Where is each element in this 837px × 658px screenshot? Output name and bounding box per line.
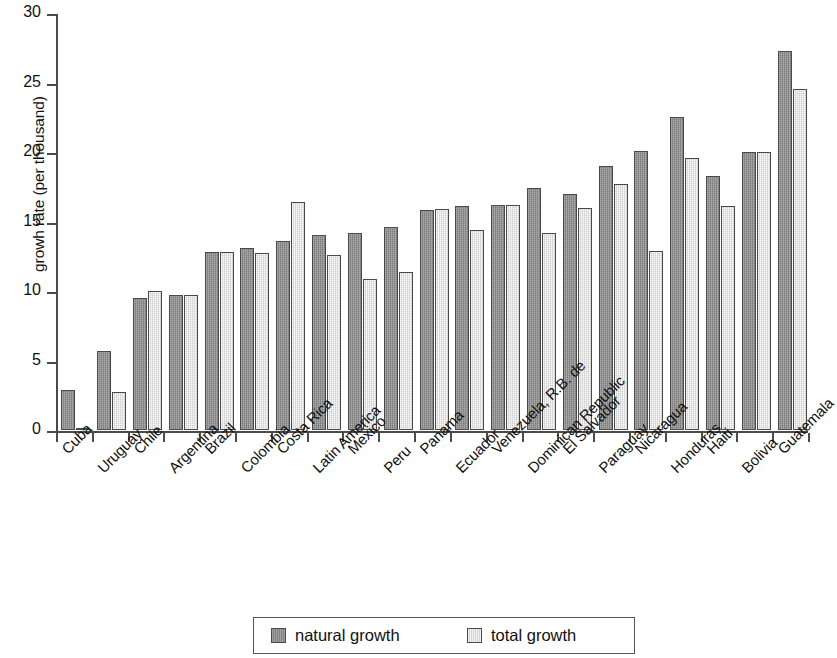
bar — [112, 392, 126, 430]
x-tick — [414, 433, 416, 442]
y-tick-label-20: 20 — [23, 142, 41, 160]
y-tick-label-25: 25 — [23, 73, 41, 91]
bar-group — [384, 13, 413, 430]
bar-group — [276, 13, 305, 430]
bar-group — [420, 13, 449, 430]
bar — [205, 252, 219, 430]
bar — [563, 194, 577, 430]
bar-group — [778, 13, 807, 430]
y-tick-20: 20 — [47, 153, 56, 155]
x-tick — [56, 433, 58, 442]
bar — [670, 117, 684, 430]
bar — [491, 205, 505, 430]
y-axis-line — [56, 14, 58, 433]
bar — [348, 233, 362, 430]
bar-group — [706, 13, 735, 430]
bar — [778, 51, 792, 430]
bar-group — [491, 13, 520, 430]
y-tick-10: 10 — [47, 292, 56, 294]
bar — [455, 206, 469, 430]
x-axis-label: Bolivia — [738, 434, 780, 476]
chart-legend: natural growth total growth — [253, 617, 635, 654]
y-tick-5: 5 — [47, 362, 56, 364]
x-axis-label: Peru — [380, 442, 414, 476]
bar — [793, 89, 807, 430]
bar — [184, 295, 198, 430]
bar-group — [312, 13, 341, 430]
y-tick-25: 25 — [47, 84, 56, 86]
y-tick-15: 15 — [47, 223, 56, 225]
y-tick-label-5: 5 — [32, 351, 41, 369]
bar-group — [742, 13, 771, 430]
plot-area: 051015202530 — [56, 14, 808, 432]
legend-swatch-natural-growth — [271, 628, 286, 643]
bar — [384, 227, 398, 430]
bar — [148, 291, 162, 430]
x-tick — [736, 433, 738, 442]
bar — [399, 272, 413, 430]
legend-entry-natural-growth: natural growth — [271, 626, 400, 645]
bar — [240, 248, 254, 430]
y-tick-label-15: 15 — [23, 212, 41, 230]
bar — [169, 295, 183, 430]
legend-entry-total-growth: total growth — [467, 626, 576, 645]
legend-swatch-total-growth — [467, 628, 482, 643]
y-tick-30: 30 — [47, 14, 56, 16]
bar — [97, 351, 111, 430]
bar — [291, 202, 305, 430]
bar — [133, 298, 147, 430]
bar-group — [61, 13, 90, 430]
bar — [721, 206, 735, 430]
bar-group — [205, 13, 234, 430]
y-tick-label-30: 30 — [23, 3, 41, 21]
bar — [276, 241, 290, 430]
legend-label-natural-growth: natural growth — [295, 626, 400, 645]
bar — [435, 209, 449, 430]
bar-group — [240, 13, 269, 430]
y-tick-label-10: 10 — [23, 281, 41, 299]
bar — [757, 152, 771, 430]
bar — [470, 230, 484, 430]
bar-group — [455, 13, 484, 430]
y-tick-0: 0 — [47, 431, 56, 433]
bar-group — [169, 13, 198, 430]
bar — [220, 252, 234, 430]
bar-group — [348, 13, 377, 430]
bar — [255, 253, 269, 430]
bar — [742, 152, 756, 430]
bar — [706, 176, 720, 430]
bar — [506, 205, 520, 430]
bar-group — [599, 13, 628, 430]
bar-group — [97, 13, 126, 430]
bar — [61, 390, 75, 430]
bar-group — [634, 13, 663, 430]
legend-label-total-growth: total growth — [491, 626, 576, 645]
bar-group — [670, 13, 699, 430]
y-tick-label-0: 0 — [32, 420, 41, 438]
bar — [634, 151, 648, 430]
bar — [685, 158, 699, 430]
bar-group — [133, 13, 162, 430]
bar-group — [527, 13, 556, 430]
bar — [649, 251, 663, 430]
bar — [420, 210, 434, 430]
